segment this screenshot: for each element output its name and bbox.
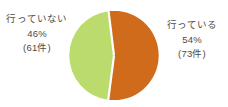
pie-slice-yes	[108, 11, 158, 100]
pie-chart-graphic	[69, 11, 159, 100]
pie-label-yes-percent: 54%	[158, 33, 226, 48]
pie-label-yes-count: (73件)	[158, 47, 226, 62]
pie-label-no-percent: 46%	[4, 27, 70, 42]
pie-label-yes: 行っている 54% (73件)	[158, 18, 226, 62]
pie-label-no: 行っていない 46% (61件)	[4, 12, 70, 56]
pie-slice-no	[69, 11, 114, 100]
pie-svg	[69, 11, 159, 100]
pie-label-no-count: (61件)	[4, 41, 70, 56]
pie-chart-figure: 行っていない 46% (61件) 行っている 54% (73件)	[0, 0, 228, 107]
pie-label-no-name: 行っていない	[4, 12, 70, 27]
pie-label-yes-name: 行っている	[158, 18, 226, 33]
